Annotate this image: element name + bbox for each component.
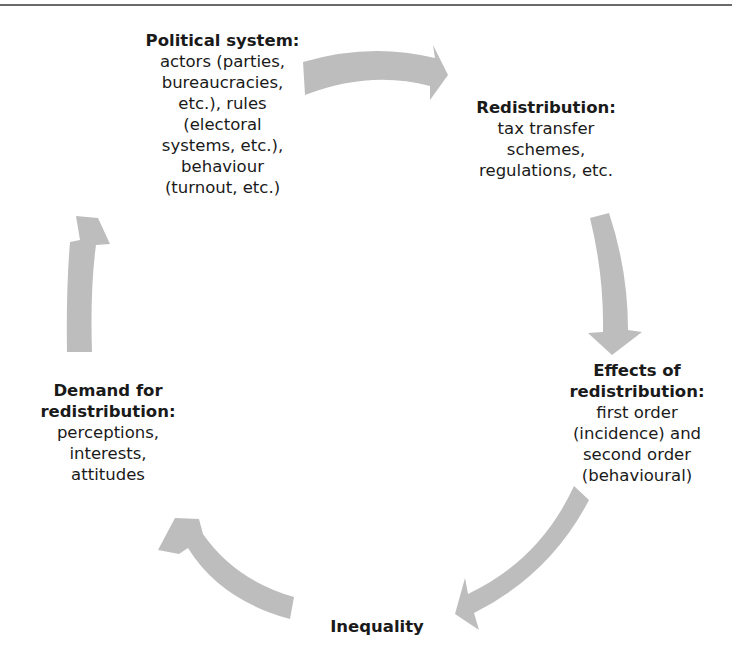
arrow-demand-to-political xyxy=(67,216,110,352)
node-body: first order (incidence) and second order… xyxy=(552,402,722,486)
arrow-effects-to-inequality xyxy=(455,486,589,630)
node-body: perceptions, interests, attitudes xyxy=(18,422,198,485)
arrow-inequality-to-demand xyxy=(158,518,294,619)
node-inequality: Inequality xyxy=(312,616,442,637)
node-title: Effects of redistribution: xyxy=(552,360,722,402)
node-redistribution: Redistribution: tax transfer schemes, re… xyxy=(462,97,630,181)
node-body: tax transfer schemes, regulations, etc. xyxy=(462,118,630,181)
node-body: actors (parties, bureaucracies, etc.), r… xyxy=(120,51,325,198)
node-title: Demand for redistribution: xyxy=(18,380,198,422)
node-title: Inequality xyxy=(312,616,442,637)
node-effects-of-redistribution: Effects of redistribution: first order (… xyxy=(552,360,722,486)
node-title: Redistribution: xyxy=(462,97,630,118)
node-title: Political system: xyxy=(120,30,325,51)
node-demand-for-redistribution: Demand for redistribution: perceptions, … xyxy=(18,380,198,485)
arrow-redistribution-to-effects xyxy=(588,213,642,355)
node-political-system: Political system: actors (parties, burea… xyxy=(120,30,325,198)
